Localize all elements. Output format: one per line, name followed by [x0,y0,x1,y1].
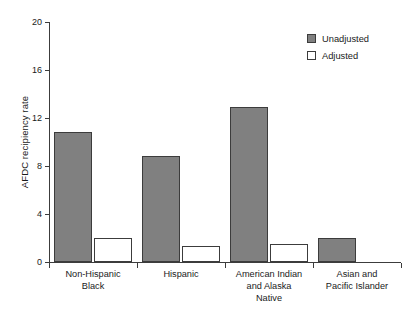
bar-adjusted [270,244,308,262]
x-axis-category-label-line: Black [49,280,137,292]
bar-unadjusted [230,107,268,262]
x-axis-category-label-line: Non-Hispanic [49,268,137,280]
y-tick-label: 20 [20,22,42,23]
legend-item: Unadjusted [307,30,407,47]
legend-item-label: Adjusted [322,51,358,61]
legend-item: Adjusted [307,47,407,64]
x-axis-category-label-line: Asian and [313,268,401,280]
y-tick-label: 8 [20,166,42,167]
filled-gray-swatch-icon [307,34,316,43]
legend-item-label: Unadjusted [322,34,369,44]
x-tick-mark [401,263,402,268]
y-tick-label: 0 [20,262,42,263]
bar-adjusted [94,238,132,262]
x-axis-category-label: Asian andPacific Islander [313,268,401,292]
bar-unadjusted [142,156,180,262]
x-axis-category-label-line: American Indian [225,268,313,280]
bar-adjusted [182,246,220,262]
bar-unadjusted [318,238,356,262]
x-axis-category-label-line: Pacific Islander [313,280,401,292]
x-axis-category-label-line: Native [225,292,313,304]
chart-figure: AFDC recipiency rate 048121620 Non-Hispa… [0,0,413,316]
y-axis-label: AFDC recipiency rate [17,22,33,262]
x-axis-category-label-line: and Alaska [225,280,313,292]
x-axis-category-label: American Indianand AlaskaNative [225,268,313,304]
x-axis-category-label-line: Hispanic [137,268,225,280]
y-tick-label: 16 [20,70,42,71]
empty-white-swatch-icon [307,51,316,60]
x-axis-category-label: Non-HispanicBlack [49,268,137,292]
x-axis-category-label: Hispanic [137,268,225,280]
y-tick-label: 12 [20,118,42,119]
y-tick-label: 4 [20,214,42,215]
bar-unadjusted [54,132,92,262]
x-axis-category-labels: Non-HispanicBlackHispanicAmerican Indian… [49,268,401,316]
chart-legend: UnadjustedAdjusted [307,30,407,64]
